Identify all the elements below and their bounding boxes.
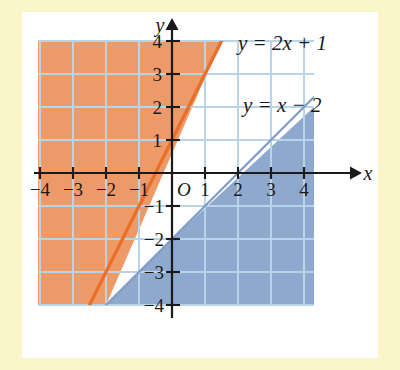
- y-tick-label-2: 2: [153, 97, 163, 118]
- x-tick-label-1: 1: [200, 179, 210, 200]
- y-tick-label-1: 1: [153, 130, 163, 151]
- y-tick-label-neg4: −4: [144, 295, 165, 316]
- y-axis-label: y: [154, 14, 165, 37]
- x-tick-label-neg3: −3: [63, 179, 83, 200]
- y-tick-label-neg1: −1: [144, 196, 164, 217]
- y-tick-label-neg3: −3: [144, 262, 164, 283]
- figure-root: −4 −3 −2 −1 1 2 3 4 4 3 2 1 −1 −2 −3 −4 …: [0, 0, 400, 370]
- x-axis-arrowhead: [350, 167, 362, 180]
- x-tick-label-4: 4: [299, 179, 309, 200]
- x-axis-label: x: [363, 162, 373, 184]
- y-axis-arrowhead: [166, 18, 179, 30]
- y-tick-label-3: 3: [153, 64, 163, 85]
- x-tick-label-neg4: −4: [30, 179, 51, 200]
- origin-label: O: [177, 179, 191, 200]
- x-tick-label-3: 3: [266, 179, 276, 200]
- y-tick-label-neg2: −2: [144, 229, 164, 250]
- x-tick-label-2: 2: [233, 179, 243, 200]
- equation-label-line-2: y = x − 2: [241, 93, 322, 117]
- graph-svg: −4 −3 −2 −1 1 2 3 4 4 3 2 1 −1 −2 −3 −4 …: [0, 0, 400, 370]
- x-tick-label-neg2: −2: [96, 179, 116, 200]
- equation-label-line-1: y = 2x + 1: [236, 31, 327, 55]
- coordinate-plane: −4 −3 −2 −1 1 2 3 4 4 3 2 1 −1 −2 −3 −4 …: [0, 0, 400, 370]
